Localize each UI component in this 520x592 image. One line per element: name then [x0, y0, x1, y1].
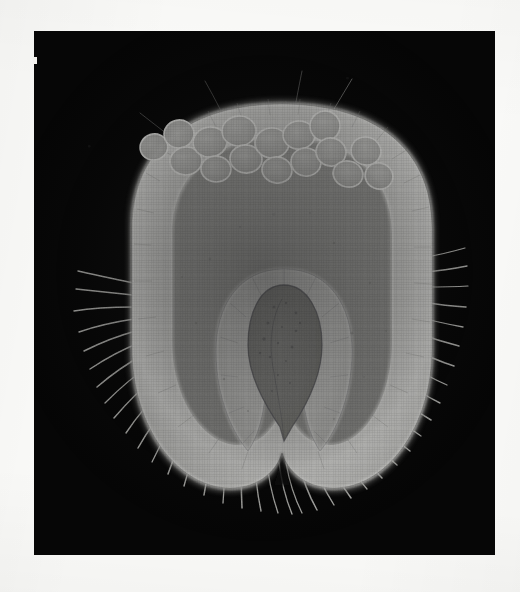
specimen-body — [34, 31, 495, 555]
body-grain — [34, 31, 495, 555]
photographic-plate — [34, 31, 495, 555]
scan-edge-artifact — [33, 57, 37, 64]
figure-caption — [0, 0, 1, 1]
figure-alt-text: Dark-field photomicrograph of a median l… — [0, 0, 1, 1]
scanned-plate-page: Dark-field photomicrograph of a median l… — [0, 0, 520, 592]
specimen-illustration — [34, 31, 495, 555]
